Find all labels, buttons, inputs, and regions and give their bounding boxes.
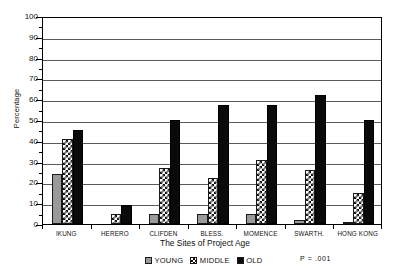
bar-middle (62, 139, 73, 224)
legend-label: OLD (246, 256, 262, 265)
bar-middle (305, 170, 316, 224)
x-tick-mark (139, 225, 140, 229)
x-category-label: BLESS. (188, 230, 237, 238)
bar-young (52, 174, 63, 224)
legend-entry: MIDDLE (190, 256, 229, 265)
crosshatch-swatch (190, 257, 197, 264)
legend-entry: YOUNG (145, 256, 183, 265)
y-tick-label: 20 (12, 179, 38, 187)
bar-young (294, 220, 305, 224)
bar-young (149, 214, 160, 224)
y-tick-label: 50 (12, 117, 38, 125)
legend-label: MIDDLE (200, 256, 230, 265)
bar-old (170, 120, 181, 224)
y-tick-label: 30 (12, 159, 38, 167)
y-tick-label: 100 (12, 13, 38, 21)
bar-middle (353, 193, 364, 224)
y-tick-label: 90 (12, 34, 38, 42)
x-tick-mark (381, 225, 382, 229)
chart-legend: YOUNGMIDDLEOLD (145, 256, 262, 265)
p-value-annotation: P = .001 (300, 255, 331, 262)
black-solid-swatch (237, 257, 244, 264)
x-tick-mark (333, 225, 334, 229)
bar-middle (159, 168, 170, 224)
x-tick-mark (236, 225, 237, 229)
legend-label: YOUNG (155, 256, 184, 265)
y-tick-label: 0 (12, 221, 38, 229)
x-tick-mark (285, 225, 286, 229)
bar-middle (208, 178, 219, 224)
y-axis-tick-labels: 1009080706050403020100 (12, 0, 38, 279)
bar-old (121, 205, 132, 224)
bar-middle (256, 160, 267, 224)
y-tick-label: 80 (12, 55, 38, 63)
bar-young (246, 214, 257, 224)
y-tick-label: 40 (12, 138, 38, 146)
bar-young (343, 222, 354, 224)
x-category-label: SWARTH. (285, 230, 334, 238)
x-category-label: CLIFDEN (139, 230, 188, 238)
y-tick-label: 10 (12, 200, 38, 208)
x-axis-title: The Sites of Project Age (130, 238, 280, 248)
x-category-label: MOMENCE (236, 230, 285, 238)
y-tick-label: 60 (12, 96, 38, 104)
bar-old (364, 120, 375, 224)
bar-old (315, 95, 326, 224)
x-category-label: IKUNG (42, 230, 91, 238)
x-category-label: HONG KONG (333, 230, 382, 238)
bar-young (197, 214, 208, 224)
bars-layer (43, 18, 381, 224)
x-category-label: HERERO (91, 230, 140, 238)
bar-middle (111, 214, 122, 224)
x-tick-mark (188, 225, 189, 229)
y-tick-label: 70 (12, 75, 38, 83)
bar-old (218, 105, 229, 224)
bar-old (267, 105, 278, 224)
x-tick-mark (42, 225, 43, 229)
x-tick-mark (91, 225, 92, 229)
bar-chart: Percentage 1009080706050403020100 IKUNGH… (0, 0, 404, 279)
gray-solid-swatch (145, 257, 152, 264)
bar-old (73, 130, 84, 224)
legend-entry: OLD (237, 256, 263, 265)
plot-area (42, 17, 382, 225)
